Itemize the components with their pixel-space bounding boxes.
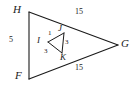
outer-side-FG — [29, 45, 118, 79]
vertex-label-h: H — [13, 4, 21, 15]
outer-triangle-shape — [29, 12, 118, 79]
inner-side-measure-ij: 1 — [48, 30, 52, 37]
vertex-label-g: G — [121, 38, 129, 49]
side-measure-fg: 15 — [75, 64, 83, 72]
vertex-label-k: K — [60, 53, 66, 62]
inner-side-JK — [62, 33, 64, 53]
outer-side-HG — [29, 12, 118, 45]
vertex-label-i: I — [37, 36, 40, 45]
vertex-label-j: J — [58, 24, 62, 33]
vertex-label-f: F — [15, 70, 22, 81]
inner-side-measure-ik: 3 — [44, 48, 48, 55]
side-measure-hf: 5 — [9, 36, 13, 44]
geometry-figure: H F G 5 15 15 I J K 1 3 3 — [0, 0, 134, 88]
inner-side-measure-jk: 3 — [65, 39, 69, 46]
side-measure-hg: 15 — [75, 8, 83, 16]
